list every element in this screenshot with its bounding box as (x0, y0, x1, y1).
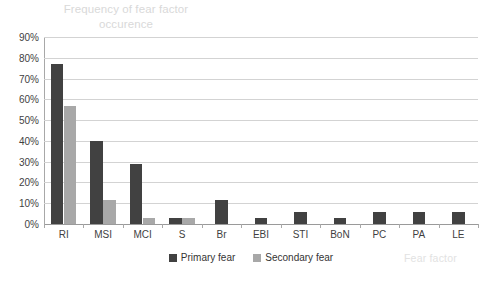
bar (90, 141, 103, 224)
y-axis-tick-label: 40% (5, 135, 39, 146)
x-axis-tick-mark (360, 224, 361, 228)
y-axis-tick-label: 80% (5, 52, 39, 63)
bar-group (320, 37, 359, 224)
x-axis-tick-label: PA (413, 229, 426, 240)
y-axis-tick-label: 30% (5, 156, 39, 167)
bar-group (44, 37, 83, 224)
bar (373, 212, 386, 224)
x-axis-tick-mark (123, 224, 124, 228)
bar-group (83, 37, 122, 224)
plot-area (44, 37, 478, 224)
bar-group (360, 37, 399, 224)
x-axis-tick-label: MCI (133, 229, 151, 240)
bar (452, 212, 465, 224)
legend-label: Secondary fear (265, 252, 333, 263)
x-axis-tick-mark (439, 224, 440, 228)
x-axis-tick-label: EBI (253, 229, 269, 240)
bar-group (439, 37, 478, 224)
chart-title: Frequency of fear factor occurence (26, 2, 226, 32)
legend-entry[interactable]: Primary fear (169, 252, 235, 263)
x-axis-tick-mark (44, 224, 45, 228)
x-axis-tick-mark (320, 224, 321, 228)
x-axis-tick-mark (83, 224, 84, 228)
bar (215, 200, 228, 224)
x-axis-tick-mark (241, 224, 242, 228)
x-axis-tick-label: MSI (94, 229, 112, 240)
bar (64, 106, 77, 224)
x-axis-tick-label: Br (217, 229, 227, 240)
legend-swatch-icon (169, 254, 177, 262)
bar-group (162, 37, 201, 224)
bar (51, 64, 64, 224)
y-axis-tick-label: 60% (5, 94, 39, 105)
y-axis-tick-label: 0% (5, 219, 39, 230)
x-axis-tick-label: BoN (330, 229, 349, 240)
bar (413, 212, 426, 224)
x-axis-tick-mark (202, 224, 203, 228)
bar-group (399, 37, 438, 224)
chart-title-line-1: Frequency of fear factor (26, 2, 226, 17)
x-axis-tick-label: LE (452, 229, 464, 240)
chart-title-line-2: occurence (26, 17, 226, 32)
bar-group (281, 37, 320, 224)
bar-group (123, 37, 162, 224)
y-axis-tick-label: 90% (5, 32, 39, 43)
bar (294, 212, 307, 224)
bar (130, 164, 143, 224)
x-axis-tick-mark (162, 224, 163, 228)
legend-entry[interactable]: Secondary fear (253, 252, 333, 263)
bar (103, 200, 116, 224)
x-axis-tick-labels: RIMSIMCISBrEBISTIBoNPCPALE (44, 229, 478, 245)
chart-legend: Primary fearSecondary fear (0, 252, 502, 263)
x-axis-tick-mark (281, 224, 282, 228)
x-axis-tick-label: STI (293, 229, 309, 240)
y-axis-tick-label: 70% (5, 73, 39, 84)
x-axis-tick-label: RI (59, 229, 69, 240)
x-axis-tick-mark (399, 224, 400, 228)
bar-chart: Frequency of fear factor occurence 90%80… (0, 0, 502, 281)
y-axis-tick-label: 10% (5, 198, 39, 209)
x-axis-tick-mark (478, 224, 479, 228)
y-axis-tick-labels: 90%80%70%60%50%40%30%20%10%0% (0, 37, 39, 224)
legend-label: Primary fear (181, 252, 235, 263)
y-axis-tick-label: 50% (5, 115, 39, 126)
legend-swatch-icon (253, 254, 261, 262)
x-axis-tick-label: PC (372, 229, 386, 240)
bars-layer (44, 37, 478, 224)
bar-group (202, 37, 241, 224)
bar-group (241, 37, 280, 224)
y-axis-tick-label: 20% (5, 177, 39, 188)
x-axis-tick-label: S (179, 229, 186, 240)
